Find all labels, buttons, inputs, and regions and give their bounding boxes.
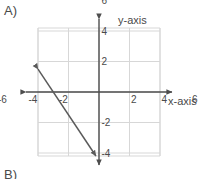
svg-text:6: 6 (192, 94, 198, 105)
axes (26, 19, 172, 165)
svg-text:2: 2 (131, 94, 137, 105)
coordinate-plane: -6-4-2246-6-4-2246 (0, 0, 198, 179)
svg-text:-2: -2 (102, 117, 111, 128)
svg-text:6: 6 (102, 0, 108, 6)
figure-panel: A) B) y-axis x-axis -6-4-2246-6-4-2246 (0, 0, 198, 179)
svg-text:4: 4 (102, 26, 108, 37)
svg-text:-4: -4 (102, 148, 111, 159)
plotted-line (38, 69, 96, 156)
svg-text:-6: -6 (0, 94, 7, 105)
svg-text:4: 4 (162, 94, 168, 105)
svg-text:-4: -4 (29, 94, 38, 105)
svg-text:2: 2 (102, 56, 108, 67)
svg-text:-6: -6 (102, 178, 111, 179)
